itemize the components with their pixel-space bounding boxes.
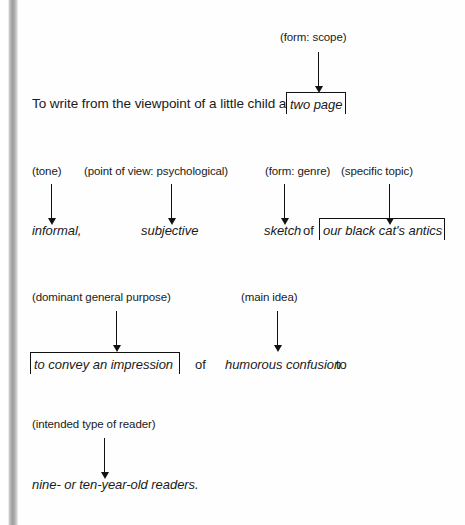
arrow-point-of-view [167, 184, 176, 225]
label-dominant-purpose: (dominant general purpose) [32, 292, 171, 304]
label-intended-reader: (intended type of reader) [32, 419, 155, 431]
label-specific-topic: (specific topic) [341, 166, 413, 178]
connector-of-second: of [195, 358, 206, 371]
label-form-scope: (form: scope) [280, 32, 346, 44]
label-main-idea: (main idea) [241, 292, 297, 304]
frag-sketch: sketch [264, 224, 301, 237]
arrow-form-genre [280, 184, 289, 225]
label-tone: (tone) [32, 166, 61, 178]
connector-to: to [336, 358, 347, 371]
arrow-form-scope [314, 52, 323, 93]
frag-nine-ten-readers: nine- or ten-year-old readers. [32, 478, 199, 491]
page-binding-shadow [8, 0, 18, 525]
lead-clause: To write from the viewpoint of a little … [32, 97, 286, 111]
connector-of-first: of [303, 224, 314, 237]
arrow-tone [47, 184, 56, 225]
frag-informal: informal, [32, 224, 81, 237]
arrow-dominant-purpose [112, 311, 121, 352]
frag-subjective: subjective [141, 224, 198, 237]
arrow-intended-reader [100, 438, 109, 479]
label-point-of-view: (point of view: psychological) [84, 166, 228, 178]
frag-two-page: two page [290, 98, 342, 111]
arrow-main-idea [273, 311, 282, 352]
frag-cat-antics: our black cat's antics [323, 224, 442, 237]
label-form-genre: (form: genre) [265, 166, 330, 178]
figure-canvas: (form: scope) To write from the viewpoin… [0, 0, 465, 525]
frag-humorous-confusion: humorous confusion [225, 358, 341, 371]
frag-convey-impression: to convey an impression [34, 358, 173, 371]
